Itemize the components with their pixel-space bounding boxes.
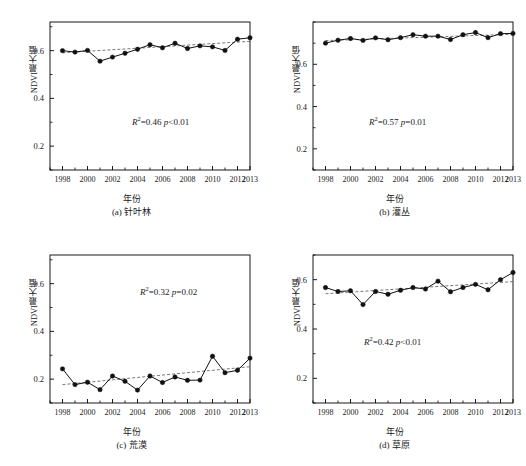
x-axis-label-d: 年份 bbox=[263, 425, 526, 438]
svg-text:2013: 2013 bbox=[505, 408, 521, 417]
svg-text:2002: 2002 bbox=[105, 408, 121, 417]
svg-text:2010: 2010 bbox=[468, 408, 484, 417]
svg-text:2004: 2004 bbox=[393, 175, 409, 184]
stat-annotation-c: R2=0.32 p=0.02 bbox=[140, 285, 197, 297]
svg-text:2006: 2006 bbox=[418, 175, 434, 184]
svg-text:0.4: 0.4 bbox=[33, 93, 44, 103]
y-axis-label-d: NDVI最大值 bbox=[293, 278, 307, 326]
svg-text:2008: 2008 bbox=[180, 175, 196, 184]
svg-text:2004: 2004 bbox=[130, 175, 146, 184]
svg-text:1998: 1998 bbox=[318, 175, 334, 184]
svg-text:2000: 2000 bbox=[343, 408, 359, 417]
x-axis-label-b: 年份 bbox=[263, 192, 526, 205]
x-axis-label-a: 年份 bbox=[0, 192, 263, 205]
stat-annotation-a: R2=0.46 p<0.01 bbox=[132, 115, 189, 127]
svg-text:2000: 2000 bbox=[343, 175, 359, 184]
svg-text:0.2: 0.2 bbox=[296, 144, 307, 154]
svg-text:2000: 2000 bbox=[80, 408, 96, 417]
svg-text:0.4: 0.4 bbox=[296, 102, 307, 112]
svg-text:1998: 1998 bbox=[318, 408, 334, 417]
panel-caption-c: (c) 荒漠 bbox=[0, 438, 263, 451]
svg-text:2013: 2013 bbox=[242, 408, 258, 417]
svg-text:2010: 2010 bbox=[468, 175, 484, 184]
svg-text:2002: 2002 bbox=[368, 408, 384, 417]
svg-text:2006: 2006 bbox=[155, 175, 171, 184]
chart-panel-b: NDVI最大值 0.20.40.619982000200220042006200… bbox=[263, 0, 526, 233]
panel-caption-d: (d) 草原 bbox=[263, 438, 526, 451]
svg-text:0.2: 0.2 bbox=[33, 374, 44, 384]
y-axis-label-a: NDVI最大值 bbox=[30, 45, 44, 93]
y-axis-label-c: NDVI最大值 bbox=[30, 278, 44, 326]
svg-text:2000: 2000 bbox=[80, 175, 96, 184]
svg-text:0.2: 0.2 bbox=[33, 141, 44, 151]
svg-text:2006: 2006 bbox=[418, 408, 434, 417]
y-axis-label-b: NDVI最大值 bbox=[293, 45, 307, 93]
svg-text:2004: 2004 bbox=[393, 408, 409, 417]
svg-text:2006: 2006 bbox=[155, 408, 171, 417]
chart-panel-a: NDVI最大值 0.20.40.619982000200220042006200… bbox=[0, 0, 263, 233]
chart-panel-d: NDVI最大值 0.20.40.619982000200220042006200… bbox=[263, 233, 526, 466]
x-axis-label-c: 年份 bbox=[0, 425, 263, 438]
svg-text:2002: 2002 bbox=[105, 175, 121, 184]
svg-text:2013: 2013 bbox=[242, 175, 258, 184]
svg-text:2008: 2008 bbox=[443, 175, 459, 184]
chart-panel-c: NDVI最大值 0.20.40.619982000200220042006200… bbox=[0, 233, 263, 466]
svg-text:2010: 2010 bbox=[205, 175, 221, 184]
figure-container: NDVI最大值 0.20.40.619982000200220042006200… bbox=[0, 0, 526, 466]
svg-text:2008: 2008 bbox=[180, 408, 196, 417]
svg-text:0.2: 0.2 bbox=[296, 373, 307, 383]
svg-text:2010: 2010 bbox=[205, 408, 221, 417]
svg-text:2008: 2008 bbox=[443, 408, 459, 417]
svg-text:1998: 1998 bbox=[55, 175, 71, 184]
svg-text:1998: 1998 bbox=[55, 408, 71, 417]
svg-text:2004: 2004 bbox=[130, 408, 146, 417]
panel-caption-b: (b) 灌丛 bbox=[263, 205, 526, 218]
panel-caption-a: (a) 针叶林 bbox=[0, 205, 263, 218]
svg-text:2013: 2013 bbox=[505, 175, 521, 184]
stat-annotation-d: R2=0.42 p<0.01 bbox=[364, 335, 421, 347]
svg-text:0.4: 0.4 bbox=[33, 326, 44, 336]
svg-text:2002: 2002 bbox=[368, 175, 384, 184]
stat-annotation-b: R2=0.57 p=0.01 bbox=[369, 115, 426, 127]
